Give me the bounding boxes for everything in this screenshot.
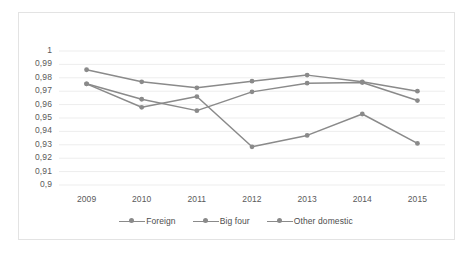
data-point-marker — [84, 81, 89, 86]
data-point-marker — [360, 80, 365, 85]
data-point-marker — [305, 73, 310, 78]
legend-label: Foreign — [146, 216, 176, 226]
legend-item-other-domestic[interactable]: Other domestic — [267, 216, 353, 226]
data-point-marker — [139, 105, 144, 110]
legend-marker-icon — [193, 217, 219, 226]
data-point-marker — [194, 85, 199, 90]
y-tick-label: 1 — [22, 46, 52, 55]
legend-item-big-four[interactable]: Big four — [193, 216, 250, 226]
data-point-marker — [250, 144, 255, 149]
data-point-marker — [360, 112, 365, 117]
legend-label: Other domestic — [294, 216, 353, 226]
x-tick-label: 2009 — [67, 195, 107, 204]
y-tick-label: 0,96 — [22, 100, 52, 109]
y-tick-label: 0,98 — [22, 73, 52, 82]
y-tick-label: 0,9 — [22, 180, 52, 189]
y-tick-label: 0,95 — [22, 113, 52, 122]
y-tick-label: 0,93 — [22, 140, 52, 149]
y-tick-label: 0,92 — [22, 153, 52, 162]
y-tick-label: 0,97 — [22, 86, 52, 95]
data-point-marker — [415, 141, 420, 146]
x-tick-label: 2012 — [232, 195, 272, 204]
data-point-marker — [415, 89, 420, 94]
y-tick-label: 0,94 — [22, 126, 52, 135]
y-tick-label: 0,99 — [22, 59, 52, 68]
y-tick-label: 0,91 — [22, 167, 52, 176]
legend-item-foreign[interactable]: Foreign — [119, 216, 176, 226]
legend-label: Big four — [220, 216, 250, 226]
x-tick-label: 2011 — [177, 195, 217, 204]
data-point-marker — [250, 89, 255, 94]
legend-marker-icon — [267, 217, 293, 226]
legend-marker-icon — [119, 217, 145, 226]
x-tick-label: 2010 — [122, 195, 162, 204]
data-point-marker — [139, 79, 144, 84]
x-tick-label: 2015 — [397, 195, 437, 204]
data-point-marker — [250, 79, 255, 84]
data-point-marker — [139, 97, 144, 102]
data-point-marker — [305, 81, 310, 86]
data-point-marker — [194, 108, 199, 113]
data-point-marker — [194, 94, 199, 99]
data-point-marker — [305, 133, 310, 138]
x-tick-label: 2013 — [287, 195, 327, 204]
data-point-marker — [415, 98, 420, 103]
series-line-big-four — [87, 82, 418, 110]
x-tick-label: 2014 — [342, 195, 382, 204]
data-point-marker — [84, 67, 89, 72]
chart-legend: ForeignBig fourOther domestic — [0, 216, 472, 226]
